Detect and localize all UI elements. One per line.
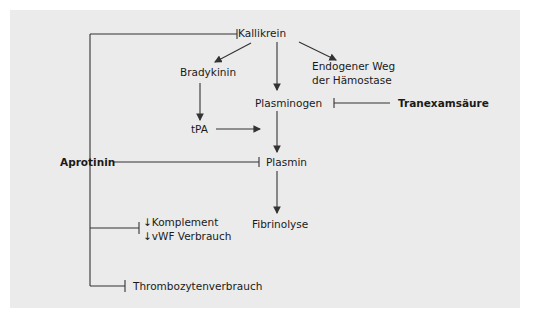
node-plasminogen: Plasminogen [255, 97, 322, 109]
decrease-arrow-icon: ↓ [143, 216, 152, 228]
node-complement: ↓Komplement [143, 216, 218, 228]
node-tpa: tPA [191, 123, 208, 135]
node-platelet-consumption: Thrombozytenverbrauch [133, 280, 262, 292]
decrease-arrow-icon: ↓ [143, 230, 152, 242]
node-aprotinin: Aprotinin [60, 156, 115, 168]
node-endogenous-line2: der Hämostase [312, 74, 392, 86]
node-plasmin: Plasmin [266, 156, 307, 168]
node-fibrinolysis: Fibrinolyse [252, 218, 308, 230]
node-tranexamic-acid: Tranexamsäure [398, 97, 489, 109]
node-vwf: ↓vWF Verbrauch [143, 230, 231, 242]
node-bradykinin: Bradykinin [180, 66, 236, 78]
node-kallikrein: Kallikrein [238, 27, 286, 39]
node-endogenous-line1: Endogener Weg [312, 60, 395, 72]
